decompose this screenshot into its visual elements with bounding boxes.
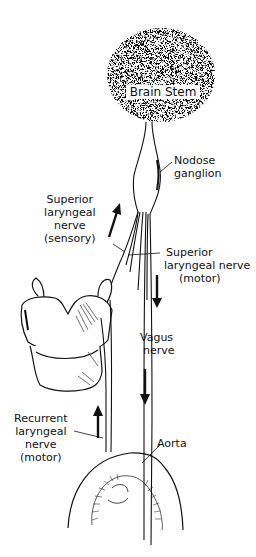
superior-laryngeal-sensory-label: Superior laryngeal nerve (sensory) (44, 193, 96, 245)
label-line: (motor) (14, 451, 68, 464)
larynx (21, 278, 112, 391)
label-line: Recurrent (14, 412, 68, 425)
label-line: Vagus (140, 331, 175, 344)
nodose-ganglion-label: Nodose ganglion (174, 154, 222, 180)
aorta (68, 453, 183, 530)
label-line: nerve (140, 344, 175, 357)
superior-laryngeal-motor-label: Superior laryngeal nerve (motor) (164, 246, 250, 285)
brain-stem-label: Brain Stem (126, 85, 200, 99)
label-line: Superior (44, 193, 96, 206)
label-line: laryngeal (44, 206, 96, 219)
aorta-label: Aorta (157, 437, 187, 450)
recurrent-laryngeal-label: Recurrent laryngeal nerve (motor) (14, 412, 68, 464)
label-line: Superior (164, 246, 250, 259)
label-line: laryngeal (14, 425, 68, 438)
label-line: Nodose (174, 154, 222, 167)
motor-down-arrow (152, 275, 162, 308)
label-line: (sensory) (44, 232, 96, 245)
vagus-down-arrow (140, 369, 150, 405)
sensory-pointer (113, 244, 125, 252)
label-line: ganglion (174, 167, 222, 180)
recurrent-up-arrow (93, 405, 103, 438)
label-line: laryngeal nerve (164, 259, 250, 272)
sensory-up-arrow (109, 203, 121, 237)
label-line: (motor) (164, 272, 250, 285)
label-line: nerve (44, 219, 96, 232)
vagus-nerve-label: Vagus nerve (140, 331, 175, 357)
brain-stem (107, 28, 215, 122)
label-line: nerve (14, 438, 68, 451)
nodose-pointer (160, 162, 172, 172)
